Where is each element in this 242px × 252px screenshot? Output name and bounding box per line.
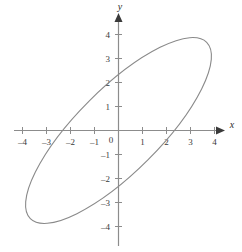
x-axis-arrow-icon	[216, 127, 225, 135]
y-tick-label-3: 3	[106, 54, 111, 64]
x-tick-label-4: 4	[212, 137, 217, 147]
x-tick-label--2: –2	[65, 137, 75, 147]
x-tick-label--4: –4	[17, 137, 28, 147]
y-tick-label--1: –1	[100, 150, 110, 160]
plot-canvas: –4 –3 –2 –1 0 1 2 3 4 4 3 2 1 –1 –2 –3 –…	[0, 0, 242, 252]
y-tick-label-4: 4	[106, 30, 111, 40]
y-axis-arrow-icon	[115, 13, 123, 22]
y-tick-label-1: 1	[106, 102, 111, 112]
y-axis-label: y	[117, 1, 123, 12]
y-tick-label--4: –4	[100, 222, 111, 232]
x-tick-label--1: –1	[89, 137, 99, 147]
y-tick-label--2: –2	[100, 174, 110, 184]
ellipse-graph-figure: –4 –3 –2 –1 0 1 2 3 4 4 3 2 1 –1 –2 –3 –…	[0, 0, 242, 252]
x-tick-label--3: –3	[41, 137, 52, 147]
x-tick-label-1: 1	[140, 137, 145, 147]
origin-label: 0	[109, 135, 114, 145]
x-tick-label-3: 3	[188, 137, 193, 147]
x-axis-label: x	[229, 119, 235, 130]
